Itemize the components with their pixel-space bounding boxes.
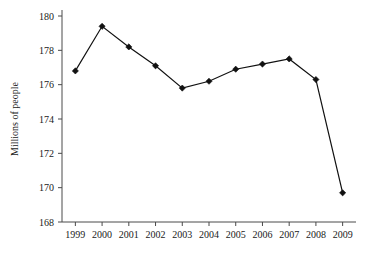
chart-canvas: 168170172174176178180 199920002001200220… [0,0,369,261]
x-tick-label: 2005 [226,229,246,240]
x-tick-label: 2006 [252,229,272,240]
y-tick-label: 174 [39,114,54,125]
x-tick-label: 2004 [199,229,219,240]
y-tick-label: 170 [39,182,54,193]
y-axis-title: Millions of people [9,82,20,156]
line-chart: 168170172174176178180 199920002001200220… [0,0,369,261]
x-tick-label: 1999 [65,229,85,240]
y-tick-label: 172 [39,148,54,159]
y-tick-label: 178 [39,45,54,56]
x-tick-label: 2002 [146,229,166,240]
x-tick-label: 2009 [333,229,353,240]
y-tick-label: 168 [39,217,54,228]
y-tick-label: 176 [39,79,54,90]
x-tick-label: 2008 [306,229,326,240]
x-tick-label: 2003 [172,229,192,240]
x-tick-label: 2001 [119,229,139,240]
x-tick-label: 2000 [92,229,112,240]
y-tick-label: 180 [39,11,54,22]
x-tick-label: 2007 [279,229,299,240]
